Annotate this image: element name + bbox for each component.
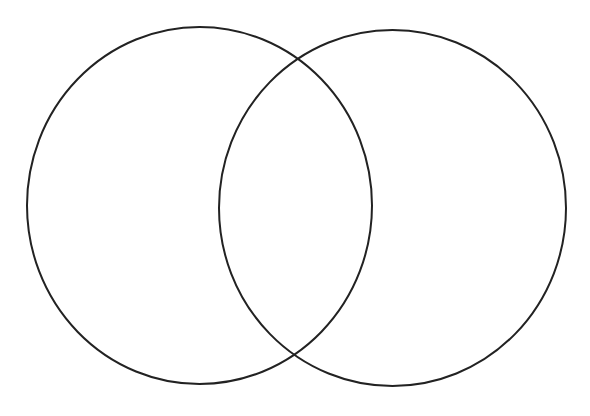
venn-diagram-canvas — [0, 0, 590, 416]
venn-diagram — [0, 0, 590, 416]
left-circle — [27, 27, 372, 384]
right-circle — [219, 30, 566, 386]
